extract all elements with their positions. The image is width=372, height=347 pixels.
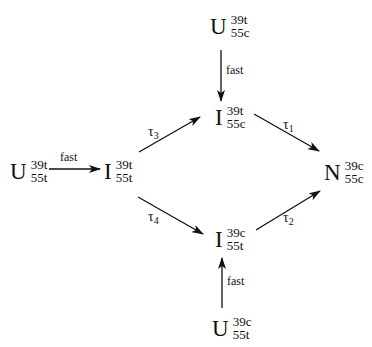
node-main: U (210, 15, 227, 38)
node-u-39t-55t: U 39t55t (10, 158, 47, 184)
node-sub: 55t (227, 239, 246, 252)
node-sub: 55t (233, 328, 252, 341)
tau-index: 4 (154, 215, 159, 226)
tau-index: 3 (154, 130, 159, 141)
node-i-39c-55t: I 39c55t (215, 226, 245, 252)
node-u-39c-55t: U 39c55t (212, 315, 251, 341)
node-main: I (215, 228, 223, 251)
tau-index: 2 (289, 216, 294, 227)
node-sub: 55c (231, 26, 250, 39)
arrows-layer (0, 0, 372, 347)
edge-label-left-fast: fast (60, 151, 77, 163)
node-main: I (215, 106, 223, 129)
node-sub: 55c (345, 172, 364, 185)
edge-label-top-fast: fast (226, 64, 243, 76)
edge-label-tau4: τ4 (148, 210, 159, 226)
tau-index: 1 (289, 123, 294, 134)
edge-label-tau2: τ2 (283, 211, 294, 227)
node-n-39c-55c: N 39c55c (324, 159, 363, 185)
node-main: N (324, 161, 341, 184)
edge-label-tau1: τ1 (283, 118, 294, 134)
node-main: U (212, 317, 229, 340)
node-main: U (10, 160, 27, 183)
edge-label-bottom-fast: fast (227, 275, 244, 287)
node-sub: 55t (116, 171, 133, 184)
node-i-39t-55c: I 39t55c (215, 104, 245, 130)
node-u-39t-55c: U 39t55c (210, 13, 249, 39)
node-main: I (104, 160, 112, 183)
node-i-39t-55t: I 39t55t (104, 158, 132, 184)
node-sub: 55t (31, 171, 48, 184)
edge-label-tau3: τ3 (148, 125, 159, 141)
node-sub: 55c (227, 117, 246, 130)
